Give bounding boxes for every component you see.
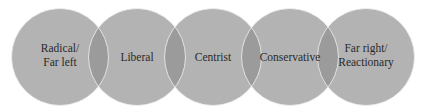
label-far-right-line1: Far right/ [344,42,388,55]
label-liberal: Liberal [120,51,153,63]
label-centrist: Centrist [195,51,232,63]
label-far-right-line2: Reactionary [338,56,394,69]
political-spectrum-diagram: Radical/ Far left Liberal Centrist Conse… [0,0,425,112]
label-radical-line1: Radical/ [41,42,80,54]
label-conservative: Conservative [260,51,321,63]
label-radical-line2: Far left [43,56,77,68]
